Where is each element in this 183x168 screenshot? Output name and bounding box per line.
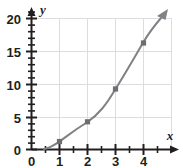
data-point-4 <box>141 40 146 45</box>
data-point-markers <box>57 40 146 144</box>
grid-horizontal <box>31 19 172 150</box>
y-tick-label-0: 0 <box>14 143 21 158</box>
data-point-3 <box>113 86 118 91</box>
y-tick-label-5: 5 <box>14 111 21 126</box>
data-point-2 <box>85 119 90 124</box>
y-tick-label-10: 10 <box>7 78 21 93</box>
y-axis-minor-ticks <box>28 12 35 143</box>
chart-canvas: 20 15 10 5 0 0 1 2 3 4 y x <box>0 0 183 168</box>
x-tick-label-2: 2 <box>84 154 91 168</box>
x-tick-label-1: 1 <box>56 154 63 168</box>
quadratic-curve-chart: 20 15 10 5 0 0 1 2 3 4 y x <box>0 0 183 168</box>
x-axis-label: x <box>166 128 174 143</box>
x-tick-label-3: 3 <box>112 154 119 168</box>
x-axis-arrowhead-icon <box>170 146 179 154</box>
x-tick-label-0: 0 <box>28 154 35 168</box>
y-tick-label-20: 20 <box>7 12 21 27</box>
y-axis-label: y <box>38 2 46 17</box>
data-curve <box>44 9 168 149</box>
y-tick-label-15: 15 <box>7 45 21 60</box>
x-tick-label-4: 4 <box>140 154 148 168</box>
data-point-1 <box>57 139 62 144</box>
